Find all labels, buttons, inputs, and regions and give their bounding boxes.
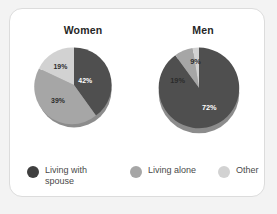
chart-page: Women 42% 39% 19% Men 72% 19% 9% <box>0 0 277 214</box>
legend-label-other: Other <box>236 165 259 176</box>
legend-swatch-icon-other <box>218 166 230 178</box>
pie-chart-women: 42% 39% 19% <box>34 45 114 129</box>
pie-women-label-living-alone: 39% <box>51 97 65 104</box>
legend-item-other: Other <box>218 165 259 178</box>
pie-chart-men: 72% 19% 9% <box>156 45 242 135</box>
legend-item-living-with-spouse: Living with spouse <box>27 165 87 186</box>
legend-label-living-with-spouse: Living with spouse <box>45 165 87 186</box>
pie-men-label-other: 9% <box>190 57 201 66</box>
pie-men-label-living-with-spouse: 72% <box>202 103 217 112</box>
pie-title-men: Men <box>158 24 248 36</box>
legend-label-living-alone: Living alone <box>148 165 196 176</box>
legend-item-living-alone: Living alone <box>130 165 196 178</box>
pie-women-svg: 42% 39% 19% <box>34 45 114 129</box>
pie-men-svg: 72% 19% 9% <box>156 45 242 135</box>
pie-men-label-living-alone: 19% <box>170 76 185 85</box>
pie-title-women: Women <box>38 24 128 36</box>
legend-swatch-icon-living-with-spouse <box>27 166 39 178</box>
chart-card: Women 42% 39% 19% Men 72% 19% 9% <box>9 8 265 197</box>
chart-legend: Living with spouse Living alone Other <box>27 163 267 193</box>
pie-women-label-other: 19% <box>54 63 68 70</box>
legend-swatch-icon-living-alone <box>130 166 142 178</box>
pie-women-label-living-with-spouse: 42% <box>78 77 92 84</box>
